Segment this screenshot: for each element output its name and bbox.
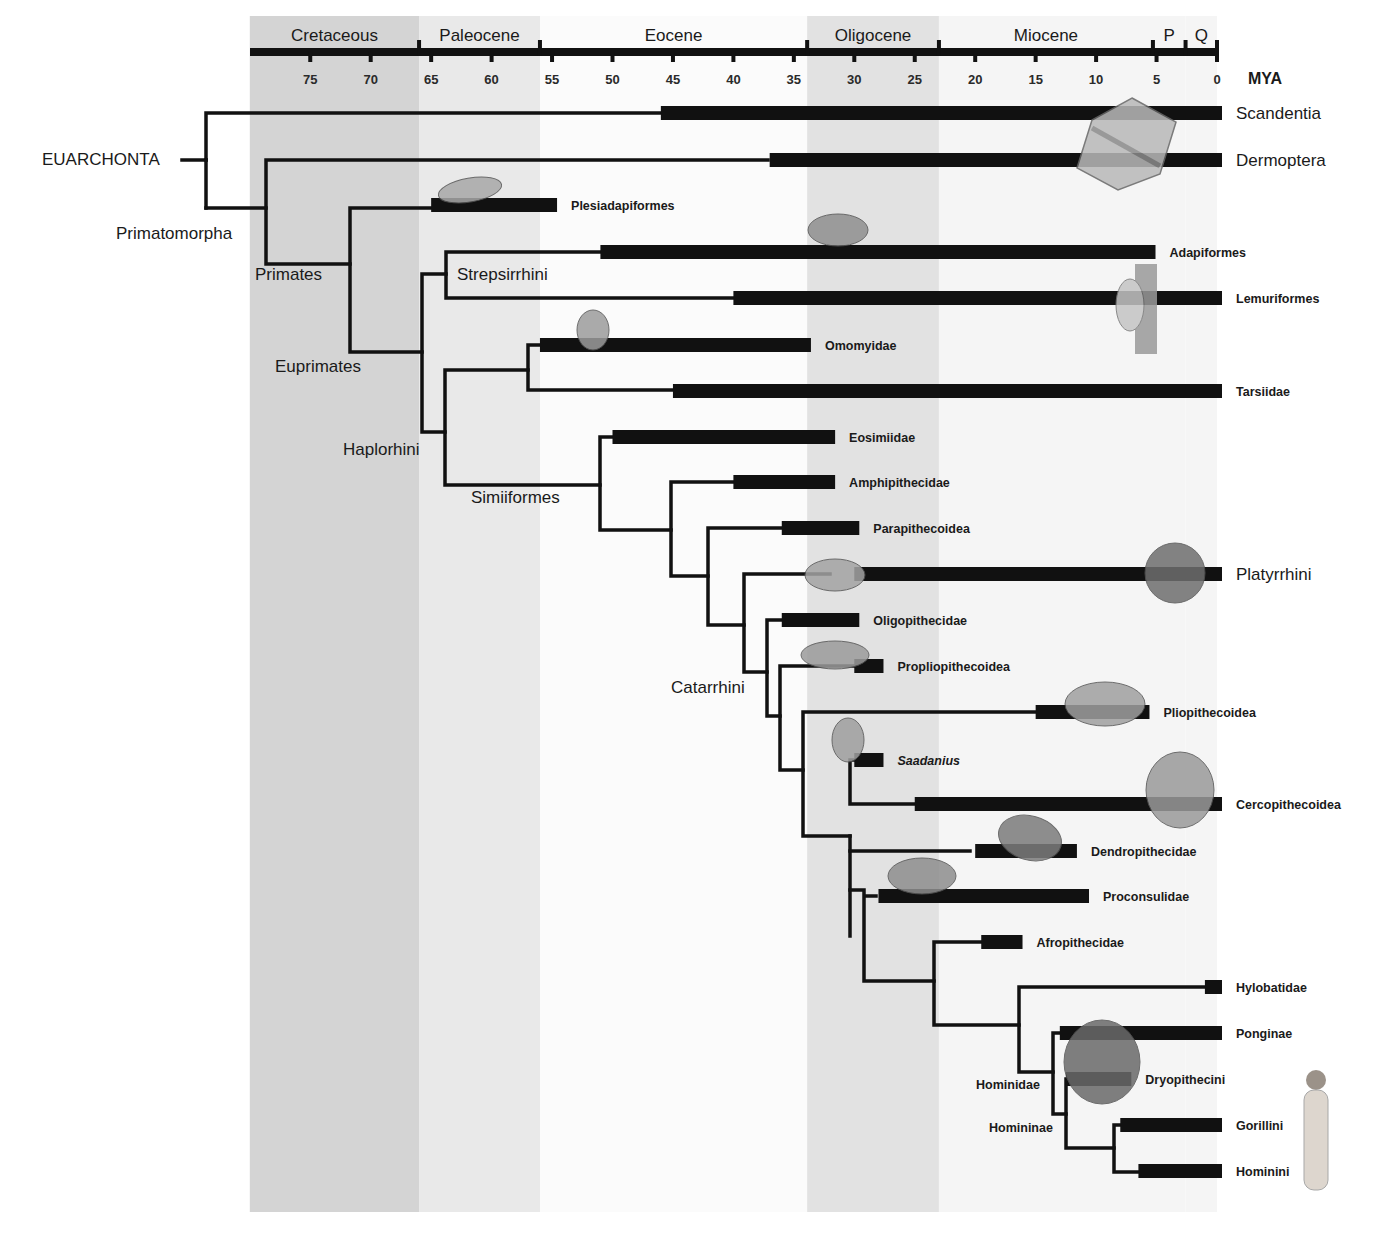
clade-label-haplorhini: Haplorhini bbox=[343, 440, 420, 459]
axis-tick-label: 50 bbox=[605, 72, 619, 87]
human-illustration-icon bbox=[1304, 1070, 1328, 1190]
axis-tick-label: 10 bbox=[1089, 72, 1103, 87]
axis-tick-label: 25 bbox=[908, 72, 922, 87]
taxon-label-platyrrhini: Platyrrhini bbox=[1236, 565, 1312, 584]
taxon-label-scandentia: Scandentia bbox=[1236, 104, 1322, 123]
range-bar-eosimiidae bbox=[613, 430, 836, 444]
axis-tick-label: 5 bbox=[1153, 72, 1160, 87]
clade-label-homininae: Homininae bbox=[989, 1121, 1053, 1135]
taxon-label-ponginae: Ponginae bbox=[1236, 1027, 1292, 1041]
dryopithecus-illustration-icon bbox=[1064, 1020, 1140, 1104]
taxon-label-pliopithecoidea: Pliopithecoidea bbox=[1163, 706, 1256, 720]
platyrrhine-left-illustration-icon bbox=[805, 559, 865, 591]
period-label-eocene: Eocene bbox=[645, 26, 703, 45]
axis-tick-label: 45 bbox=[666, 72, 680, 87]
clade-label-catarrhini: Catarrhini bbox=[671, 678, 745, 697]
axis-tick-label: 20 bbox=[968, 72, 982, 87]
period-label-cretaceous: Cretaceous bbox=[291, 26, 378, 45]
taxon-label-plesiadapiformes: Plesiadapiformes bbox=[571, 199, 675, 213]
period-label-miocene: Miocene bbox=[1014, 26, 1078, 45]
range-bar-gorillini bbox=[1120, 1118, 1222, 1132]
taxon-label-parapithecoidea: Parapithecoidea bbox=[873, 522, 971, 536]
omomyid-illustration-icon bbox=[577, 310, 609, 350]
range-bar-amphipithecidae bbox=[733, 475, 835, 489]
platyrrhine-right-illustration-icon bbox=[1145, 543, 1205, 603]
axis-tick-label: 15 bbox=[1028, 72, 1042, 87]
axis-tick-label: 60 bbox=[484, 72, 498, 87]
saadanius-illustration-icon bbox=[832, 718, 864, 762]
adapiform-illustration-icon bbox=[808, 214, 868, 246]
clade-label-strepsirrhini: Strepsirrhini bbox=[457, 265, 548, 284]
taxon-label-hominini: Hominini bbox=[1236, 1165, 1289, 1179]
taxon-label-dermoptera: Dermoptera bbox=[1236, 151, 1326, 170]
period-label-p: P bbox=[1164, 26, 1175, 45]
proconsul-illustration-icon bbox=[888, 858, 956, 894]
phylogeny-figure: CretaceousPaleoceneEoceneOligoceneMiocen… bbox=[0, 0, 1377, 1241]
period-label-paleocene: Paleocene bbox=[439, 26, 519, 45]
axis-tick-label: 30 bbox=[847, 72, 861, 87]
taxon-label-gorillini: Gorillini bbox=[1236, 1119, 1283, 1133]
taxon-label-saadanius: Saadanius bbox=[897, 754, 960, 768]
taxon-label-amphipithecidae: Amphipithecidae bbox=[849, 476, 950, 490]
taxon-label-lemuriformes: Lemuriformes bbox=[1236, 292, 1319, 306]
clade-label-hominidae: Hominidae bbox=[976, 1078, 1040, 1092]
axis-tick-label: 70 bbox=[363, 72, 377, 87]
taxon-label-dendropithecidae: Dendropithecidae bbox=[1091, 845, 1197, 859]
axis-tick-label: 65 bbox=[424, 72, 438, 87]
period-label-oligocene: Oligocene bbox=[835, 26, 912, 45]
clade-label-euprimates: Euprimates bbox=[275, 357, 361, 376]
period-band-eocene bbox=[540, 16, 807, 1212]
range-bar-tarsiidae bbox=[673, 384, 1222, 398]
taxon-label-propliopithecoidea: Propliopithecoidea bbox=[897, 660, 1011, 674]
taxon-label-hylobatidae: Hylobatidae bbox=[1236, 981, 1307, 995]
range-bar-hylobatidae bbox=[1205, 980, 1222, 994]
taxon-label-proconsulidae: Proconsulidae bbox=[1103, 890, 1189, 904]
taxon-label-dryopithecini: Dryopithecini bbox=[1145, 1073, 1225, 1087]
taxon-label-tarsiidae: Tarsiidae bbox=[1236, 385, 1290, 399]
range-bar-adapiformes bbox=[600, 245, 1155, 259]
range-bar-hominini bbox=[1138, 1164, 1222, 1178]
baboon-illustration-icon bbox=[1146, 752, 1214, 828]
taxon-label-eosimiidae: Eosimiidae bbox=[849, 431, 915, 445]
axis-tick-label: 75 bbox=[303, 72, 317, 87]
taxon-label-omomyidae: Omomyidae bbox=[825, 339, 897, 353]
range-bar-oligopithecidae bbox=[782, 613, 860, 627]
range-bar-parapithecoidea bbox=[782, 521, 860, 535]
period-label-q: Q bbox=[1195, 26, 1208, 45]
pliopithecid-illustration-icon bbox=[1065, 682, 1145, 726]
axis-tick-label: 40 bbox=[726, 72, 740, 87]
range-bar-afropithecidae bbox=[981, 935, 1022, 949]
axis-tick-label: 35 bbox=[787, 72, 801, 87]
root-label: EUARCHONTA bbox=[42, 150, 160, 169]
axis-tick-label: 55 bbox=[545, 72, 559, 87]
axis-tick-label: 0 bbox=[1213, 72, 1220, 87]
clade-label-primatomorpha: Primatomorpha bbox=[116, 224, 233, 243]
clade-label-primates: Primates bbox=[255, 265, 322, 284]
taxon-label-afropithecidae: Afropithecidae bbox=[1037, 936, 1125, 950]
clade-label-simiiformes: Simiiformes bbox=[471, 488, 560, 507]
taxon-label-adapiformes: Adapiformes bbox=[1170, 246, 1246, 260]
propliopithecid-illustration-icon bbox=[801, 641, 869, 669]
taxon-label-cercopithecoidea: Cercopithecoidea bbox=[1236, 798, 1342, 812]
taxon-label-oligopithecidae: Oligopithecidae bbox=[873, 614, 967, 628]
period-band-cretaceous bbox=[250, 16, 419, 1212]
axis-unit-label: MYA bbox=[1248, 70, 1283, 87]
